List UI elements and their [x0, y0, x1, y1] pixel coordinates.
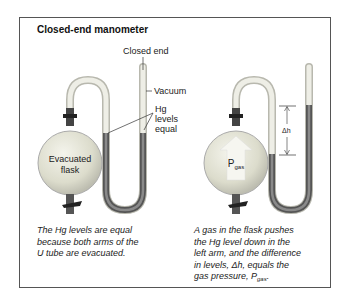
- label-p-gas: Pgas: [218, 158, 254, 173]
- label-closed-end: Closed end: [123, 46, 169, 56]
- label-p-sub: gas: [234, 164, 244, 170]
- label-flask: flask: [40, 165, 100, 176]
- caption-left-line: U tube are evacuated.: [37, 248, 139, 260]
- right-manometer: [204, 67, 309, 214]
- caption-right-line: left arm, and the difference: [194, 248, 301, 260]
- label-evacuated-flask: Evacuated flask: [40, 154, 100, 176]
- caption-left: The Hg levels are equal because both arm…: [37, 225, 139, 260]
- caption-right: A gas in the flask pushes the Hg level d…: [194, 225, 301, 286]
- left-manometer: [38, 57, 153, 214]
- caption-right-text: gas pressure, P: [194, 271, 257, 281]
- caption-right-line: in levels, Δh, equals the: [194, 260, 301, 272]
- label-delta-h: Δh: [282, 126, 291, 136]
- label-hg: Hg: [155, 104, 178, 114]
- label-levels: levels: [155, 114, 178, 124]
- caption-right-line: gas pressure, Pgas.: [194, 271, 301, 286]
- caption-right-line: the Hg level down in the: [194, 237, 301, 249]
- label-hg-levels-equal: Hg levels equal: [155, 104, 178, 134]
- caption-left-line: The Hg levels are equal: [37, 225, 139, 237]
- label-evacuated: Evacuated: [40, 154, 100, 165]
- caption-left-line: because both arms of the: [37, 237, 139, 249]
- caption-right-line: A gas in the flask pushes: [194, 225, 301, 237]
- label-vacuum: Vacuum: [154, 86, 186, 96]
- caption-right-sub: gas: [257, 276, 267, 282]
- label-equal: equal: [155, 124, 178, 134]
